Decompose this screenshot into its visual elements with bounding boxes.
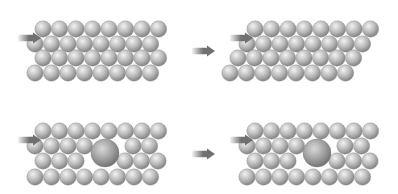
atom-sphere [27,65,43,81]
atom-sphere [329,123,345,139]
atom-sphere [296,50,312,66]
atom-sphere [51,153,67,169]
atom-sphere [150,50,166,66]
perfect-lattice-before-slip [18,21,167,81]
atom-sphere [142,65,158,81]
atom-sphere [101,50,117,66]
atom-sphere [60,138,76,154]
atom-sphere [76,138,92,154]
atom-sphere [321,65,337,81]
atom-sphere [305,169,321,185]
atom-sphere [279,50,295,66]
atom-sphere [338,36,354,52]
transition-arrow-top-icon [192,46,215,57]
atom-sphere [150,123,166,139]
atom-sphere [255,169,271,185]
atom-sphere [125,138,141,154]
atom-sphere [263,50,279,66]
atom-sphere [230,50,246,66]
atom-sphere [346,123,362,139]
atom-sphere [134,123,150,139]
lattice-panels [18,21,379,185]
atom-sphere [288,65,304,81]
atomic-lattice-diagram [0,0,398,194]
atom-sphere [312,50,328,66]
atom-sphere [362,153,378,169]
lattice-with-impurity-before [18,123,167,185]
atom-sphere [354,169,370,185]
atom-sphere [76,169,92,185]
atom-sphere [142,169,158,185]
atom-sphere [337,138,353,154]
atom-sphere [353,138,369,154]
atom-sphere [27,169,43,185]
atom-sphere [280,153,296,169]
transition-arrows [192,46,215,160]
slip-diagram [0,0,398,194]
atom-sphere [35,123,51,139]
atom-sphere [93,36,109,52]
atom-sphere [247,123,263,139]
atom-sphere [117,123,133,139]
atom-sphere [43,36,59,52]
atom-sphere [296,21,312,37]
atom-sphere [329,21,345,37]
atom-sphere [109,65,125,81]
atom-sphere [239,169,255,185]
atom-sphere [296,123,312,139]
atom-sphere [51,50,67,66]
perfect-lattice-after-slip [222,21,379,81]
atom-sphere [263,153,279,169]
atom-sphere [247,153,263,169]
atom-sphere [68,21,84,37]
atom-sphere [35,50,51,66]
transition-arrow-bottom-icon [192,149,215,160]
atom-sphere [272,36,288,52]
atom-sphere [126,65,142,81]
atom-sphere [338,169,354,185]
atom-sphere [84,21,100,37]
atom-sphere [321,36,337,52]
atom-sphere [76,36,92,52]
atom-sphere [133,153,149,169]
atom-sphere [126,169,142,185]
impurity-atom [91,139,119,167]
atom-sphere [272,138,288,154]
atom-sphere [238,65,254,81]
atom-sphere [101,123,117,139]
atom-sphere [346,21,362,37]
atom-sphere [247,21,263,37]
atom-sphere [280,21,296,37]
atom-sphere [68,50,84,66]
atom-sphere [93,65,109,81]
atom-sphere [43,65,59,81]
impurity-atom [303,139,331,167]
atom-sphere [109,169,125,185]
atom-sphere [263,21,279,37]
lattice-with-impurity-after [230,123,379,185]
atom-sphere [43,169,59,185]
atom-sphere [134,21,150,37]
atom-sphere [345,153,361,169]
atom-sphere [101,21,117,37]
atom-sphere [329,50,345,66]
atom-sphere [337,65,353,81]
atom-sphere [117,50,133,66]
atom-sphere [51,123,67,139]
atom-sphere [60,36,76,52]
atom-sphere [60,65,76,81]
atom-sphere [150,153,166,169]
atom-sphere [280,123,296,139]
atom-sphere [288,138,304,154]
atom-sphere [329,153,345,169]
atom-sphere [93,169,109,185]
atom-sphere [354,36,370,52]
atom-sphere [313,21,329,37]
atom-sphere [255,65,271,81]
atom-sphere [134,50,150,66]
atom-sphere [222,65,238,81]
atom-sphere [68,153,84,169]
atom-sphere [288,36,304,52]
atom-sphere [150,21,166,37]
atom-sphere [288,169,304,185]
